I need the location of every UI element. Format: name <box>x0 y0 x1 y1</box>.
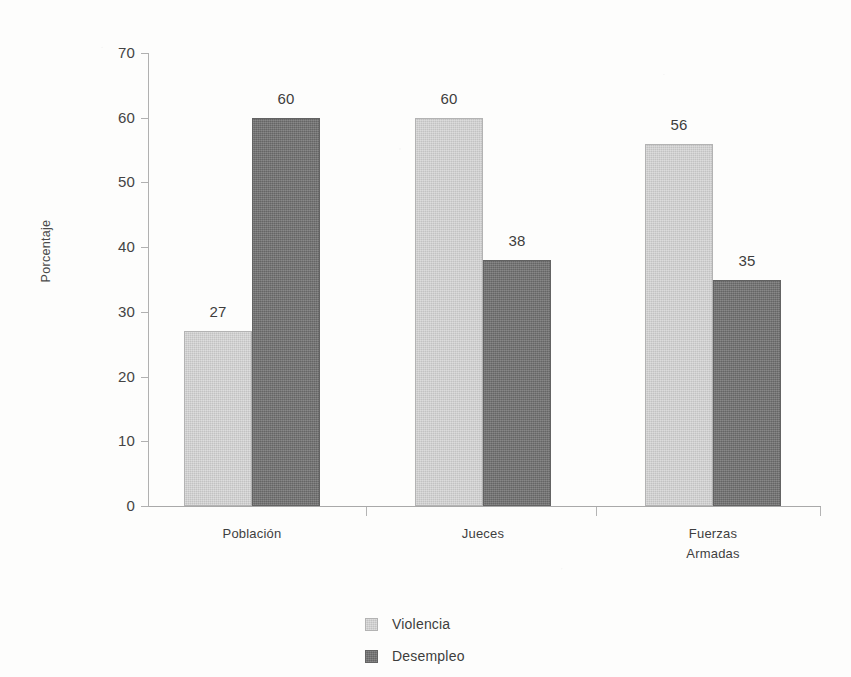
x-axis-tick <box>366 507 367 516</box>
x-axis-category-label-line: Armadas <box>615 544 811 564</box>
x-axis-tick <box>596 507 597 516</box>
bar-chart-figure: Porcentaje 010203040506070 276056603835 … <box>0 0 851 677</box>
bar-value-label: 56 <box>645 116 713 133</box>
bar-value-label: 60 <box>252 90 320 107</box>
y-axis-title: Porcentaje <box>39 191 53 311</box>
bar-violencia-2 <box>645 144 713 506</box>
chart-legend: ViolenciaDesempleo <box>365 608 465 672</box>
y-axis-tick-label: 10 <box>75 432 135 449</box>
legend-swatch-icon <box>365 650 378 663</box>
bar-value-label: 60 <box>415 90 483 107</box>
bar-desempleo-2 <box>713 280 781 507</box>
x-axis-category-label-line: Jueces <box>385 524 581 544</box>
legend-item-violencia: Violencia <box>365 608 465 640</box>
x-axis-category-label: Jueces <box>385 524 581 544</box>
bar-value-label: 35 <box>713 252 781 269</box>
y-axis-tick-label: 0 <box>75 497 135 514</box>
legend-label: Desempleo <box>392 648 465 664</box>
bar-desempleo-0 <box>252 118 320 506</box>
x-axis-category-label: Población <box>154 524 350 544</box>
x-axis-category-label-line: Población <box>154 524 350 544</box>
y-axis-tick-label: 70 <box>75 44 135 61</box>
bar-desempleo-1 <box>483 260 551 506</box>
bar-violencia-1 <box>415 118 483 506</box>
bar-violencia-0 <box>184 331 252 506</box>
y-axis-tick-label: 30 <box>75 303 135 320</box>
legend-swatch-icon <box>365 618 378 631</box>
y-axis-tick-label: 50 <box>75 173 135 190</box>
x-axis-tick <box>820 507 821 516</box>
bar-value-label: 27 <box>184 303 252 320</box>
y-axis-tick <box>141 506 149 507</box>
y-axis-tick-label: 60 <box>75 109 135 126</box>
bar-value-label: 38 <box>483 232 551 249</box>
x-axis-line <box>148 506 821 507</box>
plot-area <box>148 53 820 506</box>
legend-item-desempleo: Desempleo <box>365 640 465 672</box>
y-axis-tick-label: 40 <box>75 238 135 255</box>
x-axis-category-label-line: Fuerzas <box>615 524 811 544</box>
y-axis-tick-label: 20 <box>75 368 135 385</box>
legend-label: Violencia <box>392 616 450 632</box>
x-axis-category-label: FuerzasArmadas <box>615 524 811 564</box>
